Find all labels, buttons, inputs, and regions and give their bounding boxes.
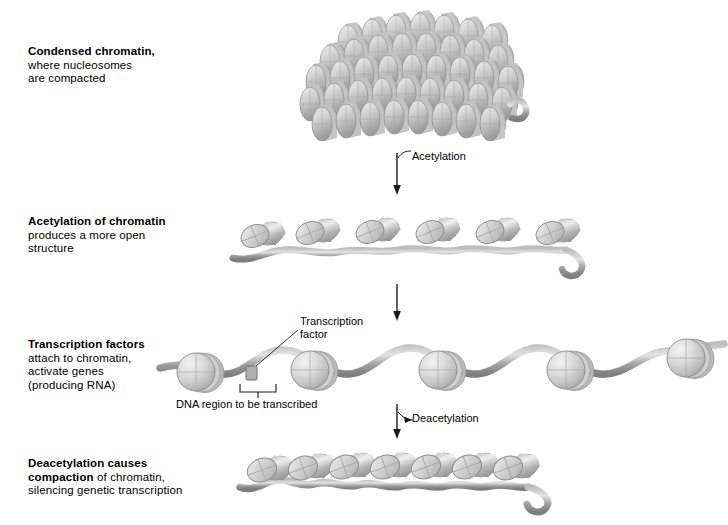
- caption-condensed-chromatin-line3: are compacted: [28, 72, 106, 84]
- label-acetylation: Acetylation: [412, 150, 466, 163]
- caption-acetylation-bold: Acetylation of chromatin: [28, 215, 166, 227]
- condensed-chromatin-cluster: [300, 10, 526, 141]
- caption-transcription-factors-line2: attach to chromatin,: [28, 352, 131, 364]
- transcription-factor-box: [246, 366, 257, 380]
- label-deacetylation: Deacetylation: [412, 412, 479, 425]
- caption-transcription-factors-bold: Transcription factors: [28, 338, 145, 350]
- caption-acetylation-line2: produces a more open: [28, 229, 145, 241]
- caption-condensed-chromatin-bold: Condensed chromatin,: [28, 45, 155, 57]
- deacetylated-compacted-strand: [240, 446, 548, 512]
- deacetylation-arrow: [393, 404, 413, 439]
- label-transcription-factor: Transcription factor: [300, 315, 363, 340]
- label-dna-region: DNA region to be transcribed: [176, 398, 317, 411]
- caption-deacetylation-line3: silencing genetic transcription: [28, 484, 182, 496]
- transcription-factor-strand: [160, 330, 724, 398]
- caption-transcription-factors-line3: activate genes: [28, 365, 104, 377]
- caption-deacetylation-bold2: compaction: [28, 471, 94, 483]
- label-transcription-factor-line2: factor: [300, 328, 328, 340]
- caption-deacetylation-bold: Deacetylation causes: [28, 457, 147, 469]
- caption-transcription-factors: Transcription factors attach to chromati…: [28, 338, 145, 392]
- label-transcription-factor-line1: Transcription: [300, 315, 363, 327]
- acetylation-arrow: [393, 151, 411, 195]
- caption-deacetylation-rest2: of chromatin,: [94, 471, 165, 483]
- caption-condensed-chromatin: Condensed chromatin, where nucleosomes a…: [28, 45, 155, 86]
- caption-deacetylation: Deacetylation causes compaction of chrom…: [28, 457, 182, 498]
- caption-transcription-factors-line4: (producing RNA): [28, 379, 115, 391]
- caption-condensed-chromatin-line2: where nucleosomes: [28, 59, 132, 71]
- transition-arrow: [393, 284, 401, 321]
- caption-acetylation-line3: structure: [28, 242, 74, 254]
- caption-acetylation-of-chromatin: Acetylation of chromatin produces a more…: [28, 215, 166, 256]
- acetylated-chromatin-strand: [233, 211, 583, 276]
- figure-canvas: Condensed chromatin, where nucleosomes a…: [0, 0, 728, 525]
